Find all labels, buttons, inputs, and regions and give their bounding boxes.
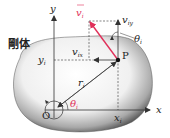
origin-label: O xyxy=(42,110,50,121)
rigid-body-diagram: 剛体 y x O yi xi ri θi vix viy vi xyxy=(0,0,170,138)
velocity-label: vi xyxy=(76,7,84,19)
y-axis-label: y xyxy=(49,3,56,14)
vy-label: viy xyxy=(122,14,134,27)
point-p xyxy=(116,58,120,62)
x-axis-label: x xyxy=(156,104,162,115)
body-label: 剛体 xyxy=(8,37,31,51)
theta-p-label: θi xyxy=(134,33,142,45)
point-p-label: P xyxy=(122,50,129,61)
